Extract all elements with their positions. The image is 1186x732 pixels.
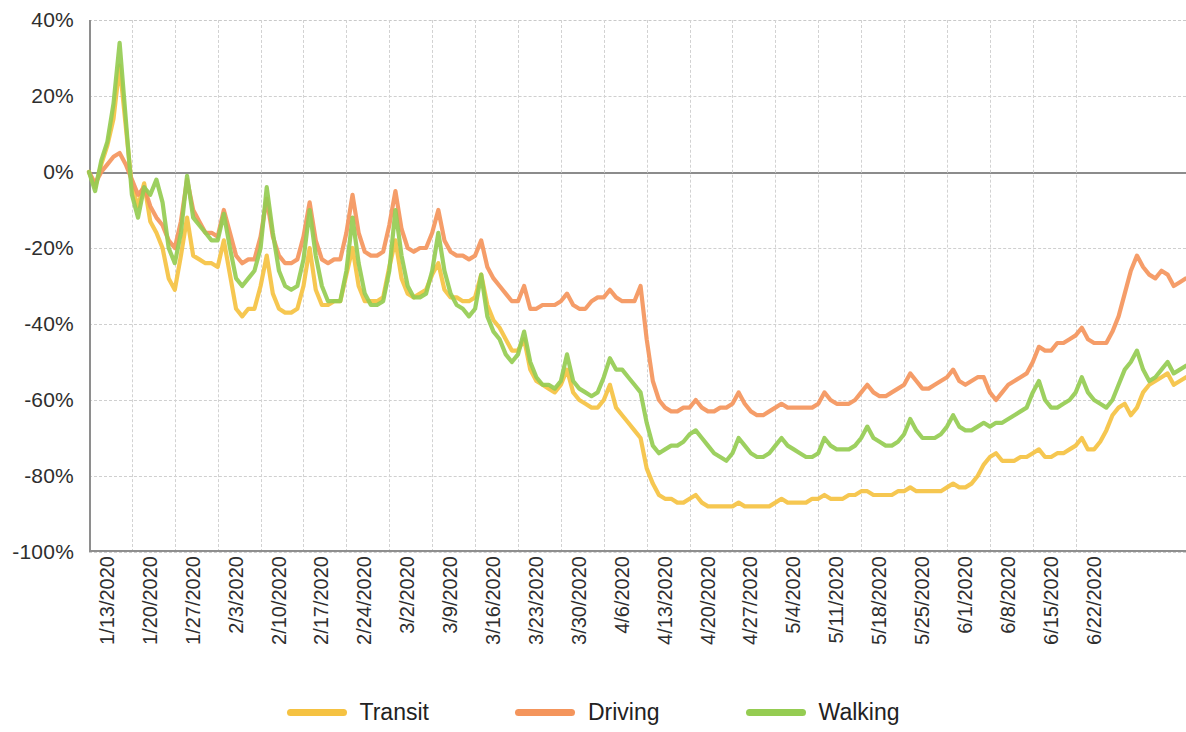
y-tick-label: 0% <box>43 160 74 184</box>
legend-label: Transit <box>360 699 429 726</box>
x-tick-label: 3/16/2020 <box>482 556 505 645</box>
series-line-walking <box>89 43 1186 461</box>
x-tick-label: 4/6/2020 <box>611 556 634 634</box>
series-line-transit <box>89 66 1186 507</box>
mobility-trends-chart: 40%20%0%-20%-40%-60%-80%-100% 1/13/20201… <box>0 0 1186 732</box>
legend-item-transit[interactable]: Transit <box>287 699 429 726</box>
chart-legend: TransitDrivingWalking <box>0 692 1186 732</box>
x-tick-label: 6/15/2020 <box>1040 556 1063 645</box>
legend-label: Walking <box>819 699 900 726</box>
legend-item-walking[interactable]: Walking <box>746 699 900 726</box>
x-tick-label: 5/11/2020 <box>825 556 848 644</box>
y-tick-label: 20% <box>31 84 74 108</box>
series-lines <box>89 20 1186 552</box>
x-tick-label: 5/4/2020 <box>782 556 805 634</box>
plot-area <box>89 20 1186 552</box>
x-tick-label: 4/20/2020 <box>697 556 720 645</box>
x-tick-label: 1/13/2020 <box>96 556 119 645</box>
x-tick-label: 3/30/2020 <box>568 556 591 645</box>
x-tick-label: 5/18/2020 <box>868 556 891 645</box>
gridline-horizontal <box>89 552 1186 553</box>
x-tick-label: 6/22/2020 <box>1083 556 1106 645</box>
x-tick-label: 2/10/2020 <box>268 556 291 645</box>
x-tick-label: 6/8/2020 <box>997 556 1020 634</box>
y-tick-label: 40% <box>31 8 74 32</box>
y-tick-label: -20% <box>24 236 74 260</box>
x-tick-label: 4/27/2020 <box>739 556 762 645</box>
x-tick-label: 3/2/2020 <box>396 556 419 634</box>
y-tick-label: -60% <box>24 388 74 412</box>
legend-item-driving[interactable]: Driving <box>515 699 660 726</box>
x-tick-label: 3/23/2020 <box>525 556 548 645</box>
x-tick-label: 2/17/2020 <box>310 556 333 645</box>
y-axis: 40%20%0%-20%-40%-60%-80%-100% <box>0 0 84 570</box>
series-line-driving <box>89 153 1186 415</box>
x-tick-label: 4/13/2020 <box>654 556 677 645</box>
x-tick-label: 2/3/2020 <box>225 556 248 634</box>
x-tick-label: 3/9/2020 <box>439 556 462 634</box>
x-tick-label: 5/25/2020 <box>911 556 934 645</box>
legend-swatch-icon <box>287 709 347 716</box>
legend-swatch-icon <box>515 709 575 716</box>
y-tick-label: -40% <box>24 312 74 336</box>
legend-label: Driving <box>588 699 660 726</box>
x-tick-label: 1/27/2020 <box>182 556 205 645</box>
x-tick-label: 1/20/2020 <box>139 556 162 645</box>
x-tick-label: 6/1/2020 <box>954 556 977 634</box>
y-tick-label: -80% <box>24 464 74 488</box>
legend-swatch-icon <box>746 709 806 716</box>
x-axis: 1/13/20201/20/20201/27/20202/3/20202/10/… <box>0 556 1186 686</box>
x-tick-label: 2/24/2020 <box>353 556 376 645</box>
